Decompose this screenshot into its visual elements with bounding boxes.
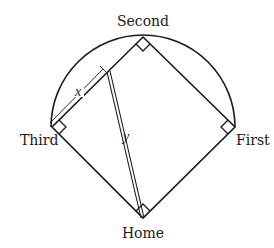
label-x: x (74, 84, 82, 99)
infield-diamond (52, 37, 235, 218)
label-y: y (121, 129, 130, 144)
segment-y-line-b (110, 71, 144, 218)
label-third: Third (20, 132, 59, 148)
label-first: First (236, 132, 270, 148)
segment-y-line-a (107, 72, 141, 218)
baseball-diamond-diagram: Second Third First Home x y (0, 0, 274, 248)
label-home: Home (122, 225, 164, 241)
right-angle-marker-second (136, 44, 150, 51)
outfield-arc (51, 35, 235, 127)
right-angle-marker-first (221, 120, 228, 134)
right-angle-marker-third (59, 120, 66, 134)
label-second: Second (117, 13, 169, 29)
